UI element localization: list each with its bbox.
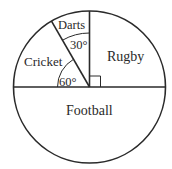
pie-chart: Darts 30° Cricket 60° Rugby Football: [0, 0, 172, 169]
label-cricket: Cricket: [24, 54, 63, 69]
label-rugby: Rugby: [107, 49, 144, 64]
label-darts-angle: 30°: [70, 38, 88, 52]
label-cricket-angle: 60°: [59, 75, 77, 89]
label-football: Football: [66, 103, 113, 118]
label-darts: Darts: [58, 18, 85, 32]
right-angle-marker: [90, 76, 101, 87]
